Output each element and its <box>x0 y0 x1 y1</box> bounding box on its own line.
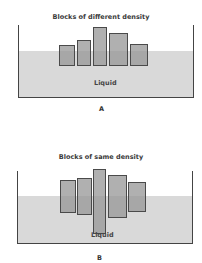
panel-a-block-4 <box>109 33 128 66</box>
panel-a-block-2 <box>77 40 91 66</box>
panel-b-liquid-label: Liquid <box>91 231 114 239</box>
panel-b-caption: B <box>97 254 102 262</box>
panel-a-block-1 <box>59 45 75 66</box>
panel-a-block-3 <box>93 27 107 66</box>
panel-b-block-5 <box>128 182 146 212</box>
panel-b-block-3 <box>93 169 106 234</box>
panel-b-block-4 <box>108 175 127 218</box>
panel-a-caption: A <box>99 105 104 113</box>
panel-b-title: Blocks of same density <box>0 153 202 161</box>
panel-a-block-5 <box>130 44 148 66</box>
panel-b-block-1 <box>60 180 76 213</box>
panel-a-title: Blocks of different density <box>0 13 202 21</box>
panel-a-liquid-label: Liquid <box>94 79 117 87</box>
panel-b-block-2 <box>77 178 92 215</box>
